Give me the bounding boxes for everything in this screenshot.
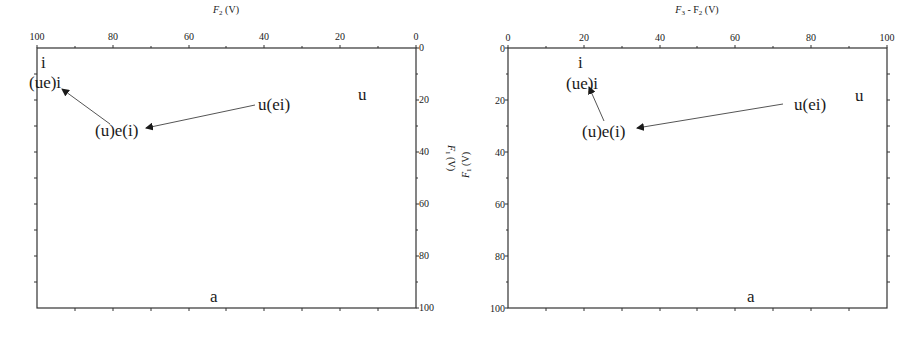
svg-text:80: 80: [108, 31, 118, 42]
label-ue-i: (ue)i: [29, 73, 61, 92]
label-a: a: [210, 287, 218, 306]
label-u-e-i: (u)e(i): [95, 121, 138, 140]
svg-text:100: 100: [880, 32, 895, 43]
f2-f1-vowel-chart: F2 (V) 100 80 60 40 20 0 0 20 40 60 80 1…: [0, 0, 460, 339]
x-tick-labels: 100 80 60 40 20 0: [30, 31, 419, 42]
svg-text:40: 40: [419, 146, 429, 157]
arrow-uei-to-uei: [146, 105, 255, 128]
label-u: u: [855, 86, 864, 105]
y-axis-title: F1 (V): [460, 152, 473, 179]
svg-text:0: 0: [506, 32, 511, 43]
svg-text:60: 60: [730, 32, 740, 43]
svg-text:60: 60: [184, 31, 194, 42]
svg-text:0: 0: [419, 42, 424, 53]
svg-text:100: 100: [490, 303, 505, 314]
svg-text:0: 0: [500, 43, 505, 54]
label-u-ei: u(ei): [258, 95, 290, 114]
svg-text:60: 60: [419, 198, 429, 209]
svg-text:40: 40: [655, 32, 665, 43]
label-a: a: [747, 287, 755, 306]
svg-text:20: 20: [495, 95, 505, 106]
label-i: i: [578, 53, 583, 72]
y-tick-labels: 0 20 40 60 80 100: [419, 42, 434, 313]
label-i: i: [41, 53, 46, 72]
arrow-uei-to-uei-2: [62, 89, 110, 124]
label-u: u: [358, 85, 367, 104]
plot-frame: [508, 48, 887, 308]
x-tick-labels: 0 20 40 60 80 100: [506, 32, 895, 43]
label-ue-i: (ue)i: [566, 74, 598, 93]
svg-text:80: 80: [419, 250, 429, 261]
label-u-e-i: (u)e(i): [582, 122, 625, 141]
vowel-labels: i (ue)i (u)e(i) u(ei) u a: [566, 53, 864, 306]
svg-text:20: 20: [335, 31, 345, 42]
trajectory-arrows: [62, 89, 255, 128]
svg-text:80: 80: [495, 251, 505, 262]
y-tick-labels: 0 20 40 60 80 100: [490, 43, 505, 314]
x-axis-title: F3 - F2 (V): [674, 4, 718, 17]
tick-marks: [505, 45, 890, 311]
label-u-ei: u(ei): [794, 95, 826, 114]
svg-text:0: 0: [414, 31, 419, 42]
svg-text:20: 20: [419, 94, 429, 105]
svg-text:100: 100: [419, 302, 434, 313]
svg-text:80: 80: [806, 32, 816, 43]
svg-text:60: 60: [495, 199, 505, 210]
svg-text:40: 40: [259, 31, 269, 42]
arrow-uei-to-uei: [637, 104, 783, 128]
y-axis-title: F1 (V): [444, 144, 457, 171]
svg-text:100: 100: [30, 31, 45, 42]
svg-text:40: 40: [495, 147, 505, 158]
svg-text:20: 20: [579, 32, 589, 43]
vowel-labels: i (ue)i (u)e(i) u(ei) u a: [29, 53, 367, 306]
f3f2-f1-vowel-chart: F3 - F2 (V) 0 20 40 60 80 100 0 20 40 60…: [460, 0, 920, 339]
x-axis-title: F2 (V): [212, 4, 239, 17]
